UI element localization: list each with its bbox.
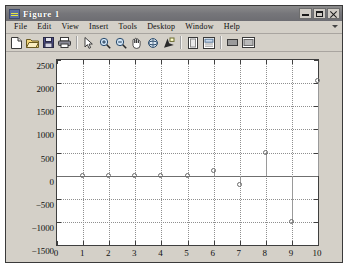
pan-hand-icon[interactable]: [129, 35, 144, 50]
y-tick-label: 500: [41, 154, 54, 164]
x-tick-label: 6: [210, 248, 214, 258]
insert-legend-icon[interactable]: [201, 35, 216, 50]
x-tick-mark: [292, 60, 293, 64]
data-point-marker[interactable]: [80, 173, 85, 178]
gridline-horizontal: [57, 153, 318, 154]
data-point-marker[interactable]: [237, 182, 242, 187]
gridline-vertical: [135, 60, 136, 245]
x-tick-mark: [240, 60, 241, 64]
y-tick-mark: [57, 245, 61, 246]
save-figure-icon[interactable]: [41, 35, 56, 50]
x-tick-mark: [188, 241, 189, 245]
show-plot-tools-icon[interactable]: [241, 35, 256, 50]
y-tick-label: −1000: [31, 223, 54, 233]
x-tick-mark: [266, 241, 267, 245]
x-tick-mark: [135, 60, 136, 64]
plot-axes[interactable]: [56, 59, 319, 246]
data-cursor-icon[interactable]: [161, 35, 176, 50]
y-tick-mark: [57, 199, 61, 200]
window-title: Figure 1: [23, 9, 298, 19]
x-tick-label: 8: [263, 248, 267, 258]
y-tick-label: −1500: [31, 246, 54, 256]
hide-plot-tools-icon[interactable]: [225, 35, 240, 50]
y-tick-mark: [314, 199, 318, 200]
rotate-3d-icon[interactable]: [145, 35, 160, 50]
x-tick-mark: [318, 241, 319, 245]
figure-window[interactable]: Figure 1 File Edit View Insert Tools Des…: [5, 5, 343, 263]
x-tick-label: 1: [80, 248, 84, 258]
x-axis-tick-labels: 012345678910: [56, 248, 319, 262]
menu-item-tools[interactable]: Tools: [113, 21, 142, 33]
data-point-marker[interactable]: [158, 173, 163, 178]
x-tick-mark: [109, 241, 110, 245]
y-tick-mark: [57, 60, 61, 61]
y-tick-mark: [314, 60, 318, 61]
new-figure-icon[interactable]: [9, 35, 24, 50]
x-tick-label: 4: [158, 248, 162, 258]
gridline-vertical: [109, 60, 110, 245]
x-tick-mark: [135, 241, 136, 245]
x-tick-mark: [161, 241, 162, 245]
y-tick-label: 0: [50, 177, 54, 187]
menu-item-view[interactable]: View: [56, 21, 84, 33]
data-point-marker[interactable]: [132, 173, 137, 178]
x-tick-label: 3: [132, 248, 136, 258]
menu-item-desktop[interactable]: Desktop: [142, 21, 180, 33]
gridline-horizontal: [57, 129, 318, 130]
edit-plot-arrow-icon[interactable]: [81, 35, 96, 50]
x-tick-label: 5: [184, 248, 188, 258]
x-tick-mark: [240, 241, 241, 245]
toolbar[interactable]: [6, 34, 342, 52]
x-tick-mark: [83, 60, 84, 64]
x-tick-label: 7: [236, 248, 240, 258]
menu-item-help[interactable]: Help: [219, 21, 245, 33]
x-tick-mark: [161, 60, 162, 64]
menu-item-insert[interactable]: Insert: [84, 21, 113, 33]
y-tick-mark: [57, 83, 61, 84]
y-tick-label: 2500: [36, 61, 54, 71]
x-tick-mark: [266, 60, 267, 64]
menu-item-file[interactable]: File: [9, 21, 32, 33]
gridline-horizontal: [57, 199, 318, 200]
data-point-marker[interactable]: [211, 168, 216, 173]
x-tick-label: 2: [106, 248, 110, 258]
data-point-marker[interactable]: [185, 173, 190, 178]
x-tick-mark: [318, 60, 319, 64]
y-tick-mark: [57, 129, 61, 130]
insert-colorbar-icon[interactable]: [185, 35, 200, 50]
x-tick-mark: [292, 241, 293, 245]
x-tick-label: 0: [54, 248, 58, 258]
data-point-marker[interactable]: [106, 173, 111, 178]
y-tick-mark: [314, 222, 318, 223]
gridline-horizontal: [57, 83, 318, 84]
maximize-button[interactable]: [313, 8, 326, 19]
close-button[interactable]: [327, 8, 340, 19]
x-tick-mark: [83, 241, 84, 245]
chevron-down-icon[interactable]: [332, 25, 338, 28]
gridline-horizontal: [57, 106, 318, 107]
y-axis-tick-labels: −1500−1000−50005001000150020002500: [12, 59, 54, 246]
data-point-marker[interactable]: [289, 219, 294, 224]
zoom-out-icon[interactable]: [113, 35, 128, 50]
x-tick-label: 10: [313, 248, 322, 258]
zoom-in-icon[interactable]: [97, 35, 112, 50]
menu-item-edit[interactable]: Edit: [32, 21, 56, 33]
data-point-marker[interactable]: [315, 78, 320, 83]
gridline-vertical: [214, 60, 215, 245]
menu-item-window[interactable]: Window: [180, 21, 218, 33]
figure-canvas[interactable]: −1500−1000−50005001000150020002500 01234…: [6, 52, 342, 262]
x-tick-mark: [109, 60, 110, 64]
print-figure-icon[interactable]: [57, 35, 72, 50]
minimize-button[interactable]: [299, 8, 312, 19]
y-tick-mark: [57, 153, 61, 154]
open-file-icon[interactable]: [25, 35, 40, 50]
x-tick-mark: [214, 241, 215, 245]
menu-bar[interactable]: File Edit View Insert Tools Desktop Wind…: [6, 21, 342, 34]
gridline-vertical: [83, 60, 84, 245]
gridline-vertical: [161, 60, 162, 245]
title-bar[interactable]: Figure 1: [6, 6, 342, 21]
data-stem: [266, 153, 267, 176]
matlab-figure-icon: [9, 9, 20, 19]
data-point-marker[interactable]: [263, 150, 268, 155]
data-stem: [292, 176, 293, 222]
